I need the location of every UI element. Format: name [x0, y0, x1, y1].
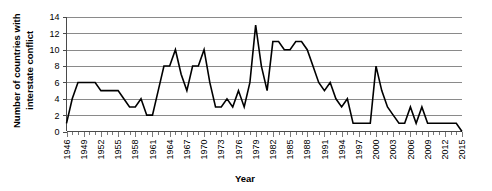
y-tick-label-6: 6 — [54, 78, 59, 88]
x-tick-label-1973: 1973 — [216, 140, 226, 160]
chart-container: Number of countries with interstate conf… — [0, 0, 492, 191]
x-tick-label-1991: 1991 — [320, 140, 330, 160]
y-axis-title: Number of countries with interstate conf… — [11, 13, 35, 128]
x-tick-label-1964: 1964 — [165, 140, 175, 160]
x-tick-label-1997: 1997 — [354, 140, 364, 160]
x-axis-title: Year — [235, 173, 255, 184]
y-axis-title-line-1: Number of countries with — [11, 13, 22, 128]
y-tick-label-14: 14 — [49, 12, 59, 22]
y-tick-label-2: 2 — [54, 111, 59, 121]
x-tick-label-2003: 2003 — [388, 140, 398, 160]
x-tick-label-2000: 2000 — [371, 140, 381, 160]
x-tick-label-1946: 1946 — [62, 140, 72, 160]
x-tick-label-1988: 1988 — [302, 140, 312, 160]
x-tick-label-1979: 1979 — [251, 140, 261, 160]
y-axis-title-line-2: interstate conflict — [24, 30, 35, 110]
x-tick-label-1982: 1982 — [268, 140, 278, 160]
x-axis-ticks: 1946194919521955195819611964196719701973… — [62, 132, 468, 160]
x-tick-label-1994: 1994 — [337, 140, 347, 160]
x-tick-label-1985: 1985 — [285, 140, 295, 160]
y-tick-label-8: 8 — [54, 61, 59, 71]
x-tick-label-1952: 1952 — [96, 140, 106, 160]
x-tick-label-2009: 2009 — [423, 140, 433, 160]
x-tick-label-1967: 1967 — [182, 140, 192, 160]
y-tick-label-12: 12 — [49, 29, 59, 39]
y-tick-label-4: 4 — [54, 94, 59, 104]
x-tick-label-1961: 1961 — [148, 140, 158, 160]
y-axis-ticks: 02468101214 — [49, 12, 66, 136]
interstate-conflict-line-chart: Number of countries with interstate conf… — [0, 0, 492, 191]
x-tick-label-1955: 1955 — [113, 140, 123, 160]
x-tick-label-2012: 2012 — [440, 140, 450, 160]
x-tick-label-1970: 1970 — [199, 140, 209, 160]
y-tick-label-0: 0 — [54, 127, 59, 137]
x-tick-label-1976: 1976 — [234, 140, 244, 160]
x-tick-label-1958: 1958 — [130, 140, 140, 160]
x-tick-label-2015: 2015 — [457, 140, 467, 160]
x-tick-label-1949: 1949 — [79, 140, 89, 160]
y-tick-label-10: 10 — [49, 45, 59, 55]
x-tick-label-2006: 2006 — [406, 140, 416, 160]
